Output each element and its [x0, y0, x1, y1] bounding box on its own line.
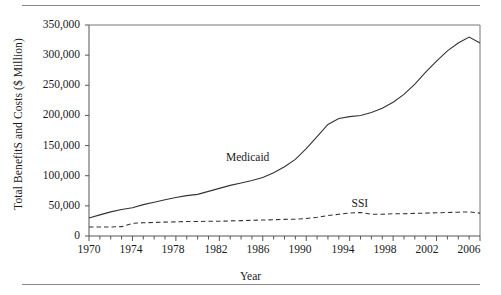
series-line-medicaid — [89, 37, 480, 218]
series-label-ssi: SSI — [352, 197, 369, 209]
x-axis-ticks — [89, 236, 480, 241]
figure-container: Total BenefitS and Costs ($ Million) Yea… — [0, 0, 501, 295]
series-line-ssi — [89, 212, 480, 227]
plot-frame — [89, 25, 480, 236]
y-axis-ticks — [85, 25, 89, 236]
chart-plot — [0, 0, 501, 295]
series-label-medicaid: Medicaid — [226, 151, 269, 163]
